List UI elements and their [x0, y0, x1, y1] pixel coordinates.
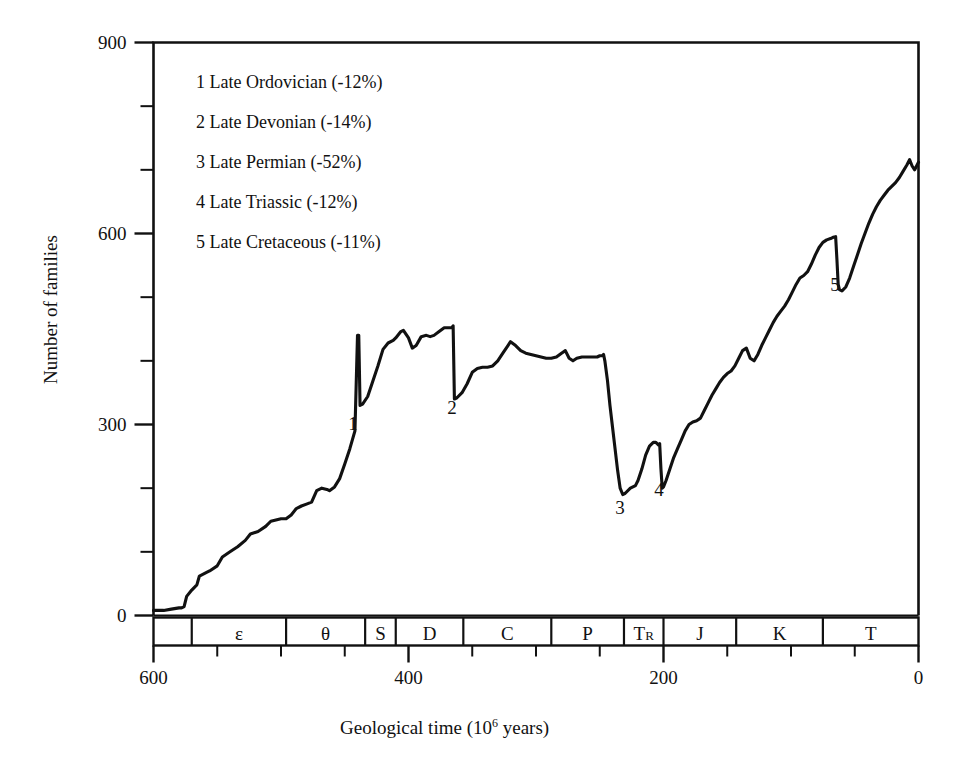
- period-box-label: S: [365, 623, 396, 645]
- legend-entry: 2 Late Devonian (-14%): [196, 112, 382, 133]
- y-axis-ticks: [135, 43, 154, 616]
- period-box-label: C: [463, 623, 551, 645]
- x-axis-title-suffix: years): [498, 717, 549, 738]
- legend-entry: 5 Late Cretaceous (-11%): [196, 232, 382, 253]
- legend-entry: 1 Late Ordovician (-12%): [196, 72, 382, 93]
- period-box-label: ε: [192, 623, 286, 645]
- period-box-label: D: [396, 623, 464, 645]
- legend-entry: 3 Late Permian (-52%): [196, 152, 382, 173]
- event-marker-3: 3: [608, 498, 632, 517]
- event-marker-2: 2: [440, 398, 464, 417]
- period-box-label: θ: [286, 623, 365, 645]
- x-axis-ticks: [154, 646, 919, 663]
- y-tick-label: 900: [57, 33, 127, 52]
- chart-canvas: [0, 0, 970, 769]
- period-box-label: T: [823, 623, 919, 645]
- figure-marine-family-diversity: Number of families Geological time (106 …: [0, 0, 970, 769]
- extinction-events-legend: 1 Late Ordovician (-12%)2 Late Devonian …: [196, 72, 382, 272]
- event-marker-4: 4: [647, 480, 671, 499]
- x-tick-label: 600: [119, 668, 189, 687]
- y-tick-label: 300: [57, 415, 127, 434]
- y-tick-label: 0: [57, 606, 127, 625]
- y-tick-label: 600: [57, 224, 127, 243]
- x-tick-label: 200: [629, 668, 699, 687]
- period-box-subscript: R: [645, 628, 654, 643]
- event-marker-1: 1: [341, 414, 365, 433]
- event-marker-5: 5: [823, 275, 847, 294]
- period-box-label: K: [736, 623, 823, 645]
- period-box-label: TR: [624, 623, 664, 645]
- x-tick-label: 400: [374, 668, 444, 687]
- legend-entry: 4 Late Triassic (-12%): [196, 192, 382, 213]
- x-tick-label: 0: [884, 668, 954, 687]
- period-box-label: P: [551, 623, 624, 645]
- x-axis-title: Geological time (106 years): [340, 718, 549, 737]
- period-box-label: J: [664, 623, 737, 645]
- x-axis-title-prefix: Geological time (10: [340, 717, 492, 738]
